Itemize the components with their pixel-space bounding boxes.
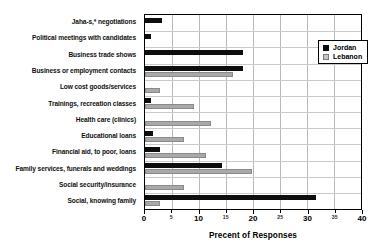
axis-tick-label: 25 — [277, 215, 283, 220]
bar-jordan — [145, 98, 151, 103]
axis-tick-label: 15 — [223, 215, 229, 220]
x-axis-title: Precent of Responses — [144, 231, 362, 240]
bar-row — [145, 144, 361, 160]
bar-row — [145, 96, 361, 112]
bar-row — [145, 177, 361, 193]
bar-row — [145, 64, 361, 80]
bar-row — [145, 112, 361, 128]
axis-tick-label: 40 — [358, 215, 367, 223]
bar-jordan — [145, 163, 222, 168]
x-axis: 0510152025303540 — [144, 210, 362, 232]
category-label: Low cost goods/services — [0, 79, 140, 95]
bar-jordan — [145, 18, 162, 23]
category-axis-labels: Jaha-s,* negotiationsPolitical meetings … — [0, 14, 140, 210]
category-label: Jaha-s,* negotiations — [0, 14, 140, 30]
bar-jordan — [145, 66, 243, 71]
bar-lebanon — [145, 104, 194, 109]
axis-tick-label: 10 — [194, 215, 203, 223]
axis-tick-label: 35 — [332, 215, 338, 220]
bar-lebanon — [145, 88, 160, 93]
bar-row — [145, 161, 361, 177]
bar-row — [145, 193, 361, 209]
axis-tick-label: 20 — [249, 215, 258, 223]
axis-tick-label: 0 — [142, 215, 146, 223]
category-label: Business or employment contacts — [0, 63, 140, 79]
bar-row — [145, 15, 361, 31]
bar-chart: Jaha-s,* negotiationsPolitical meetings … — [0, 0, 389, 252]
axis-tick — [226, 210, 227, 213]
category-label: Financial aid, to poor, loans — [0, 145, 140, 161]
bar-jordan — [145, 131, 153, 136]
axis-tick-label: 30 — [303, 215, 312, 223]
axis-tick-label: 5 — [170, 215, 173, 220]
category-label: Family services, funerals and weddings — [0, 161, 140, 177]
chart-legend: JordanLebanon — [318, 40, 368, 64]
bar-lebanon — [145, 153, 206, 158]
legend-swatch-icon — [323, 45, 329, 51]
axis-tick — [171, 210, 172, 213]
bar-lebanon — [145, 137, 184, 142]
bar-lebanon — [145, 121, 211, 126]
bar-row — [145, 128, 361, 144]
bar-jordan — [145, 195, 316, 200]
category-label: Health care (clinics) — [0, 112, 140, 128]
category-label: Social security/insurance — [0, 177, 140, 193]
bar-jordan — [145, 50, 243, 55]
category-label: Educational loans — [0, 128, 140, 144]
category-label: Trainings, recreation classes — [0, 96, 140, 112]
bar-jordan — [145, 147, 160, 152]
axis-tick — [280, 210, 281, 213]
category-label: Political meetings with candidates — [0, 30, 140, 46]
legend-label: Jordan — [333, 44, 356, 51]
legend-label: Lebanon — [333, 53, 362, 60]
bar-lebanon — [145, 169, 252, 174]
legend-swatch-icon — [323, 54, 329, 60]
bar-lebanon — [145, 185, 184, 190]
bar-row — [145, 80, 361, 96]
legend-item: Jordan — [323, 44, 362, 51]
category-label: Business trade shows — [0, 47, 140, 63]
category-label: Social, knowing family — [0, 194, 140, 210]
legend-item: Lebanon — [323, 53, 362, 60]
bar-lebanon — [145, 72, 233, 77]
axis-tick — [335, 210, 336, 213]
bar-lebanon — [145, 201, 160, 206]
bar-jordan — [145, 34, 151, 39]
